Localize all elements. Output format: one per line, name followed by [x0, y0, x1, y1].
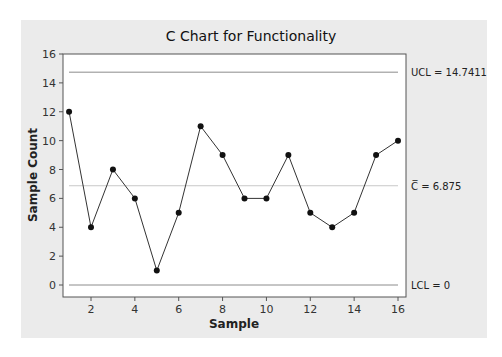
limit-labels: UCL = 14.7411C̅ = 6.875LCL = 0: [411, 67, 487, 291]
data-point: [395, 138, 401, 144]
data-point: [132, 195, 138, 201]
data-point: [176, 210, 182, 216]
x-axis-title: Sample: [209, 317, 259, 331]
y-axis-title: Sample Count: [26, 128, 40, 222]
y-tick-label: 12: [42, 106, 56, 119]
y-tick-label: 16: [42, 48, 56, 61]
data-point: [351, 210, 357, 216]
lcl-label: LCL = 0: [411, 280, 450, 291]
y-axis: 0246810121416: [42, 48, 63, 292]
data-point: [88, 224, 94, 230]
plot-area: [63, 54, 406, 297]
data-point: [220, 152, 226, 158]
data-point: [263, 195, 269, 201]
y-tick-label: 4: [49, 221, 56, 234]
data-point: [373, 152, 379, 158]
data-point: [66, 109, 72, 115]
x-tick-label: 4: [131, 303, 138, 316]
x-axis: 246810121416: [88, 297, 406, 316]
x-tick-label: 2: [88, 303, 95, 316]
x-tick-label: 8: [219, 303, 226, 316]
data-point: [154, 268, 160, 274]
data-point: [285, 152, 291, 158]
data-point: [110, 167, 116, 173]
ucl-label: UCL = 14.7411: [411, 67, 487, 78]
x-tick-label: 10: [259, 303, 273, 316]
x-tick-label: 6: [175, 303, 182, 316]
y-tick-label: 8: [49, 164, 56, 177]
y-tick-label: 10: [42, 135, 56, 148]
y-tick-label: 0: [49, 279, 56, 292]
data-point: [307, 210, 313, 216]
x-tick-label: 12: [303, 303, 317, 316]
y-tick-label: 14: [42, 77, 56, 90]
c-chart: 0246810121416 246810121416 UCL = 14.7411…: [0, 0, 502, 357]
data-point: [329, 224, 335, 230]
cl-label: C̅ = 6.875: [411, 180, 461, 192]
x-tick-label: 14: [347, 303, 361, 316]
data-point: [198, 123, 204, 129]
data-point: [242, 195, 248, 201]
x-tick-label: 16: [391, 303, 405, 316]
y-tick-label: 6: [49, 192, 56, 205]
y-tick-label: 2: [49, 250, 56, 263]
